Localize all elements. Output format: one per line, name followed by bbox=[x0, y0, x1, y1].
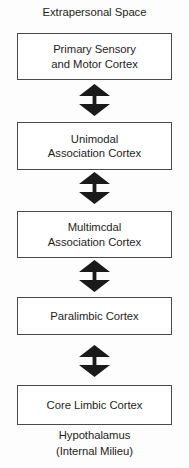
double-headed-vertical-arrow-icon bbox=[79, 345, 110, 377]
diagram-bottom-label-line-1: Hypothalamus bbox=[0, 429, 189, 442]
diagram-top-label: Extrapersonal Space bbox=[0, 6, 189, 19]
node-label-line-1: Paralimbic Cortex bbox=[50, 309, 138, 324]
node-primary-sensory-motor-cortex: Primary Sensory and Motor Cortex bbox=[17, 33, 172, 80]
hierarchy-diagram: Extrapersonal Space Primary Sensory and … bbox=[0, 0, 189, 468]
node-label-line-1: Unimodal bbox=[71, 132, 118, 147]
double-headed-vertical-arrow-icon bbox=[79, 172, 110, 204]
diagram-bottom-label-line-2: (Internal Milieu) bbox=[0, 445, 189, 458]
node-label-line-2: Association Cortex bbox=[48, 235, 141, 250]
node-label-line-2: Association Cortex bbox=[48, 146, 141, 161]
node-paralimbic-cortex: Paralimbic Cortex bbox=[17, 297, 172, 335]
node-label-line-1: Core Limbic Cortex bbox=[47, 398, 143, 413]
node-unimodal-association-cortex: Unimodal Association Cortex bbox=[17, 122, 172, 170]
node-multimodal-association-cortex: Multimcdal Association Cortex bbox=[17, 211, 172, 258]
node-label-line-1: Primary Sensory bbox=[53, 42, 136, 57]
double-headed-vertical-arrow-icon bbox=[79, 84, 110, 116]
node-core-limbic-cortex: Core Limbic Cortex bbox=[17, 385, 172, 425]
node-label-line-1: Multimcdal bbox=[68, 220, 122, 235]
double-headed-vertical-arrow-icon bbox=[79, 260, 110, 292]
node-label-line-2: and Motor Cortex bbox=[51, 57, 137, 72]
